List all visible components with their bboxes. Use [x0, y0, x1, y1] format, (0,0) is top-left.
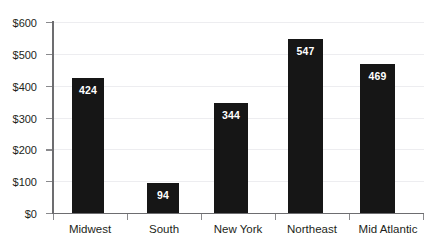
x-axis-tick-mark: [53, 214, 54, 220]
gridline: [53, 54, 424, 55]
bar-new-york: 344: [214, 103, 248, 213]
x-axis-tick-mark: [275, 214, 276, 220]
x-axis-line: [52, 213, 424, 215]
x-axis-tick-mark: [127, 214, 128, 220]
x-axis-category-label-new-york: New York: [201, 224, 275, 236]
bar-mid-atlantic: 469: [360, 64, 395, 213]
y-axis-tick-label: $500: [0, 50, 37, 61]
x-axis-tick-mark: [349, 214, 350, 220]
x-axis-category-label-mid-atlantic: Mid Atlantic: [349, 224, 427, 236]
y-axis-tick-label: $600: [0, 18, 37, 29]
plot-area: $600 $500 $400 $300 $200 $100 $0 424 94 …: [53, 22, 424, 213]
x-axis-category-label-northeast: Northeast: [275, 224, 349, 236]
x-axis-category-label-south: South: [127, 224, 201, 236]
y-axis-tick-label: $0: [0, 209, 37, 220]
y-axis-tick-label: $200: [0, 145, 37, 156]
y-axis-tick-label: $300: [0, 114, 37, 125]
bar-value-label: 424: [72, 84, 104, 96]
y-axis-tick-label: $100: [0, 177, 37, 188]
bar-northeast: 547: [288, 39, 323, 213]
bar-value-label: 547: [288, 45, 323, 57]
bar-value-label: 469: [360, 70, 395, 82]
x-axis-category-label-midwest: Midwest: [53, 224, 127, 236]
y-axis-line: [52, 21, 54, 214]
bar-value-label: 94: [147, 189, 179, 201]
bar-midwest: 424: [72, 78, 104, 213]
bar-south: 94: [147, 183, 179, 213]
bar-chart: $600 $500 $400 $300 $200 $100 $0 424 94 …: [0, 0, 434, 251]
bar-value-label: 344: [214, 109, 248, 121]
gridline: [53, 22, 424, 23]
x-axis-tick-mark: [201, 214, 202, 220]
y-axis-tick-label: $400: [0, 82, 37, 93]
x-axis-tick-mark: [423, 214, 424, 220]
